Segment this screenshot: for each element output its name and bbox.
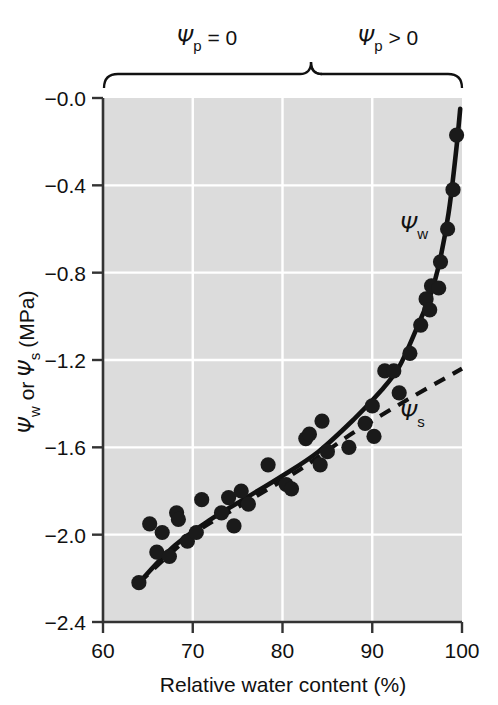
- data-point: [194, 492, 209, 507]
- y-tick-label: −2.4: [45, 611, 87, 634]
- data-point: [392, 385, 407, 400]
- data-point: [433, 254, 448, 269]
- curve-w-psi: Ψ: [400, 212, 418, 237]
- data-point: [189, 525, 204, 540]
- x-tick-labels: 60708090100: [91, 639, 479, 662]
- annotation-psi-p-equals-zero: Ψp = 0: [177, 26, 238, 54]
- x-axis-title: Relative water content (%): [160, 673, 406, 696]
- data-point: [162, 549, 177, 564]
- brace-group: [104, 62, 462, 88]
- y-axis-unit: (MPa): [15, 290, 38, 347]
- data-point: [142, 516, 157, 531]
- brace-right-rel: > 0: [383, 26, 419, 49]
- y-axis-title: Ψw orΨs(MPa): [15, 290, 43, 433]
- y-axis-sub-w: w: [26, 406, 43, 418]
- data-point: [155, 525, 170, 540]
- data-point: [302, 427, 317, 442]
- y-tick-label: −2.0: [45, 524, 86, 547]
- data-point: [366, 429, 381, 444]
- brace-left-psi: Ψ: [177, 26, 194, 50]
- y-tick-labels: −0.0−0.4−0.8−1.2−1.6−2.0−2.4: [45, 87, 87, 634]
- data-point: [413, 318, 428, 333]
- data-point: [386, 363, 401, 378]
- data-point: [313, 457, 328, 472]
- y-axis-psi-w: Ψ: [15, 417, 39, 434]
- data-point: [341, 440, 356, 455]
- data-point: [214, 505, 229, 520]
- x-tick-label: 100: [444, 639, 479, 662]
- x-tick-label: 60: [91, 639, 114, 662]
- brace-center-tip: [311, 62, 322, 74]
- curve-s-psi: Ψ: [400, 400, 418, 425]
- data-point: [445, 182, 460, 197]
- y-axis-or: or: [15, 382, 38, 407]
- x-tick-label: 80: [271, 639, 294, 662]
- data-point: [365, 398, 380, 413]
- curve-w-sub: w: [416, 225, 428, 242]
- y-tick-label: −0.8: [45, 262, 86, 285]
- data-point: [402, 346, 417, 361]
- y-tick-label: −0.0: [45, 87, 86, 110]
- data-point: [431, 280, 446, 295]
- x-tick-label: 70: [181, 639, 204, 662]
- data-point: [449, 128, 464, 143]
- x-tick-label: 90: [361, 639, 384, 662]
- data-point: [241, 497, 256, 512]
- data-point: [314, 414, 329, 429]
- data-point: [226, 518, 241, 533]
- data-point: [131, 575, 146, 590]
- annotation-psi-p-greater-zero: Ψp > 0: [358, 26, 419, 54]
- data-point: [234, 483, 249, 498]
- brace-left-rel: = 0: [202, 26, 238, 49]
- y-tick-label: −0.4: [45, 174, 87, 197]
- brace-left-sub: p: [193, 37, 201, 54]
- brace-right-sub: p: [374, 37, 382, 54]
- data-point: [440, 221, 455, 236]
- y-tick-label: −1.2: [45, 349, 86, 372]
- data-point: [261, 457, 276, 472]
- y-axis-psi-s: Ψ: [15, 360, 39, 377]
- figure-container: −0.0−0.4−0.8−1.2−1.6−2.0−2.4 60708090100…: [0, 0, 498, 705]
- curve-s-sub: s: [417, 413, 425, 430]
- y-axis-sub-s: s: [26, 353, 43, 361]
- data-point: [171, 512, 186, 527]
- data-point: [358, 416, 373, 431]
- brace-left-and-right: [104, 62, 462, 88]
- y-tick-label: −1.6: [45, 436, 86, 459]
- data-point: [284, 481, 299, 496]
- brace-right-psi: Ψ: [358, 26, 375, 50]
- data-point: [320, 444, 335, 459]
- data-point: [422, 302, 437, 317]
- chart-svg: −0.0−0.4−0.8−1.2−1.6−2.0−2.4 60708090100…: [0, 0, 498, 705]
